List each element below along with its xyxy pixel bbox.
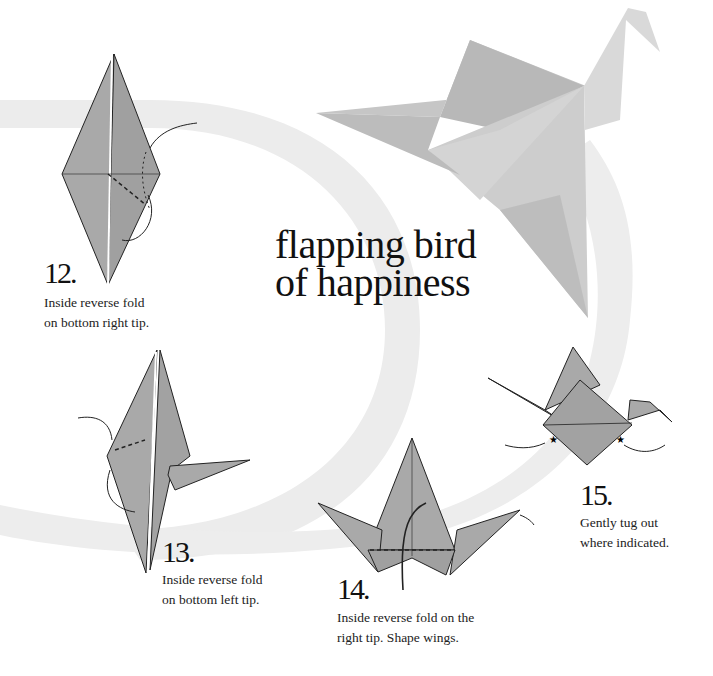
tug-star-icon: ★ bbox=[616, 434, 625, 445]
step-15-line-1: Gently tug out bbox=[580, 513, 669, 533]
step-15-text: Gently tug out where indicated. bbox=[580, 513, 669, 553]
step-13-line-1: Inside reverse fold bbox=[162, 570, 262, 590]
tug-star-icon: ★ bbox=[549, 434, 558, 445]
title-line-2: of happiness bbox=[275, 264, 476, 302]
step-15-diagram: ★ ★ bbox=[488, 347, 672, 465]
page-title: flapping bird of happiness bbox=[275, 226, 476, 302]
step-12-number: 12. bbox=[44, 258, 76, 288]
step-15-line-2: where indicated. bbox=[580, 533, 669, 553]
step-12-text: Inside reverse fold on bottom right tip. bbox=[44, 293, 149, 333]
step-15-number: 15. bbox=[580, 480, 612, 510]
step-12-line-1: Inside reverse fold bbox=[44, 293, 149, 313]
step-12-diagram bbox=[62, 54, 197, 285]
step-13-number: 13. bbox=[162, 537, 194, 567]
title-line-1: flapping bird bbox=[275, 226, 476, 264]
step-13-line-2: on bottom left tip. bbox=[162, 590, 262, 610]
step-14-number: 14. bbox=[337, 574, 369, 604]
step-12-line-2: on bottom right tip. bbox=[44, 313, 149, 333]
step-14-line-2: right tip. Shape wings. bbox=[337, 628, 474, 648]
step-14-line-1: Inside reverse fold on the bbox=[337, 608, 474, 628]
step-14-text: Inside reverse fold on the right tip. Sh… bbox=[337, 608, 474, 648]
step-13-text: Inside reverse fold on bottom left tip. bbox=[162, 570, 262, 610]
